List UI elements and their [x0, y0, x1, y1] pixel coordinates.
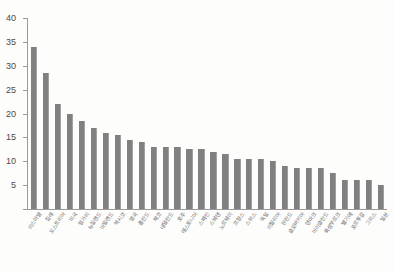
- y-axis-tick: [23, 42, 27, 43]
- chart-screenshot: 510152025303540 이스라엘칠레오스트리아미국헝가리뉴질랜드아일랜드…: [0, 0, 394, 272]
- bar: [79, 121, 85, 209]
- bar-series: [28, 18, 387, 209]
- bar: [151, 147, 157, 209]
- bar: [342, 180, 348, 209]
- bar: [318, 168, 324, 209]
- x-axis-label: 일본: [379, 211, 390, 223]
- x-axis-labels: 이스라엘칠레오스트리아미국헝가리뉴질랜드아일랜드멕시코영국폴란드체코네덜란드호주…: [27, 211, 387, 272]
- y-axis-tick-label: 40: [0, 14, 16, 23]
- bar: [294, 168, 300, 209]
- bar: [139, 142, 145, 209]
- y-axis-tick-label: 20: [0, 110, 16, 119]
- x-axis-label: 영국: [128, 211, 139, 223]
- y-axis-tick: [23, 90, 27, 91]
- x-axis-label: 프랑스: [233, 211, 247, 227]
- bar: [103, 133, 109, 209]
- x-axis-label: 호주: [176, 211, 187, 223]
- bar: [234, 159, 240, 209]
- bar: [186, 149, 192, 209]
- x-axis-label: 그리스: [364, 211, 378, 227]
- y-axis-tick: [23, 161, 27, 162]
- x-axis-label: 칠레: [44, 211, 55, 223]
- bar: [55, 104, 61, 209]
- y-axis-tick: [23, 18, 27, 19]
- bar: [115, 135, 121, 209]
- bar: [31, 47, 37, 209]
- y-axis-tick: [23, 185, 27, 186]
- x-axis-label: 이스라엘: [26, 211, 42, 231]
- x-axis-label: 미국: [68, 211, 79, 223]
- y-axis-tick-label: 10: [0, 157, 16, 166]
- y-axis-tick: [23, 114, 27, 115]
- bar: [354, 180, 360, 209]
- x-axis-label: 스페인: [197, 211, 211, 227]
- bar: [127, 140, 133, 209]
- bar: [258, 159, 264, 209]
- y-axis-tick-label: 15: [0, 133, 16, 142]
- bar: [270, 161, 276, 209]
- bar: [174, 147, 180, 209]
- x-axis-line: [27, 209, 387, 210]
- bar: [330, 173, 336, 209]
- plot-area: 510152025303540: [27, 18, 387, 210]
- bar: [163, 147, 169, 209]
- y-axis-tick-label: 35: [0, 38, 16, 47]
- bar: [43, 73, 49, 209]
- y-axis-tick-label: 25: [0, 86, 16, 95]
- y-axis-tick-label: 5: [0, 181, 16, 190]
- bar: [306, 168, 312, 209]
- bar: [378, 185, 384, 209]
- bar: [198, 149, 204, 209]
- x-axis-label: 스위스: [245, 211, 259, 227]
- y-axis-tick: [23, 66, 27, 67]
- bar: [67, 114, 73, 210]
- y-axis-tick-label: 30: [0, 62, 16, 71]
- y-axis-tick: [23, 137, 27, 138]
- bar: [222, 154, 228, 209]
- x-axis-label: 폴란드: [137, 211, 151, 227]
- bar: [246, 159, 252, 209]
- bar: [282, 166, 288, 209]
- y-axis-tick: [23, 209, 27, 210]
- bar: [91, 128, 97, 209]
- bar: [210, 152, 216, 209]
- bar: [366, 180, 372, 209]
- x-axis-label: 체코: [152, 211, 163, 223]
- x-axis-label: 멕시코: [113, 211, 127, 227]
